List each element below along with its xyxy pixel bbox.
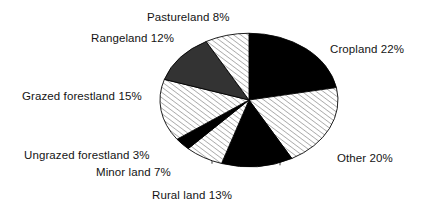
pie-label-rural-land: Rural land 13% [152,189,232,202]
pie-label-pastureland: Pastureland 8% [147,11,230,24]
pie-label-rangeland: Rangeland 12% [91,32,174,45]
pie-chart: Pastureland 8% Rangeland 12% Cropland 22… [0,0,428,213]
pie-label-other: Other 20% [337,152,393,165]
pie-label-minor-land: Minor land 7% [96,166,171,179]
pie-label-grazed-forestland: Grazed forestland 15% [22,90,142,103]
pie-label-ungrazed-forestland: Ungrazed forestland 3% [24,149,150,162]
pie-label-cropland: Cropland 22% [330,43,404,56]
pie-chart-graphic [0,0,428,213]
pie-slices [160,33,338,166]
